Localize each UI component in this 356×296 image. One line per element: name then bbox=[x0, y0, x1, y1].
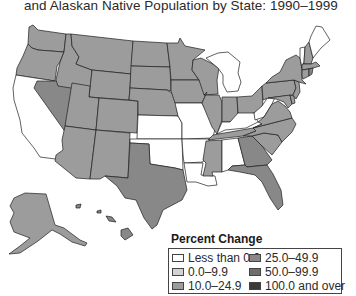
legend-item: 100.0 and over bbox=[249, 279, 345, 293]
legend-item: Less than 0.0 bbox=[172, 251, 260, 265]
state-wy bbox=[89, 70, 131, 100]
state-nd bbox=[131, 41, 170, 67]
state-wa bbox=[28, 25, 66, 52]
legend-item: 50.0–99.9 bbox=[249, 265, 318, 279]
legend-item: 0.0–9.9 bbox=[172, 265, 228, 279]
legend-swatch bbox=[172, 254, 184, 262]
legend-swatch bbox=[249, 254, 261, 262]
state-ms bbox=[203, 140, 222, 176]
legend-label: 25.0–49.9 bbox=[265, 251, 318, 265]
state-ct bbox=[302, 69, 309, 79]
legend-label: 100.0 and over bbox=[265, 279, 345, 293]
legend-label: 50.0–99.9 bbox=[265, 265, 318, 279]
legend-swatch bbox=[249, 268, 261, 276]
legend-swatch bbox=[172, 282, 184, 290]
legend-title: Percent Change bbox=[171, 232, 262, 246]
state-ks bbox=[137, 115, 182, 139]
state-co bbox=[96, 98, 138, 133]
legend-swatch bbox=[249, 282, 261, 290]
state-sd bbox=[130, 66, 171, 91]
state-me bbox=[309, 26, 330, 58]
legend-swatch bbox=[172, 268, 184, 276]
legend-label: 10.0–24.9 bbox=[188, 279, 241, 293]
legend-item: 10.0–24.9 bbox=[172, 279, 241, 293]
legend: Less than 0.0 0.0–9.9 10.0–24.9 25.0–49.… bbox=[168, 248, 342, 294]
state-fl bbox=[228, 165, 283, 210]
state-ri bbox=[309, 68, 313, 76]
state-nm bbox=[90, 130, 130, 179]
legend-label: 0.0–9.9 bbox=[188, 265, 228, 279]
state-hi bbox=[76, 204, 133, 240]
legend-item: 25.0–49.9 bbox=[249, 251, 318, 265]
state-ak bbox=[9, 193, 87, 254]
